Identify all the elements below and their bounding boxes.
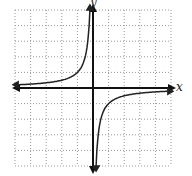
x-axis-label: x — [176, 80, 183, 94]
graph — [0, 0, 192, 176]
y-axis-label: y — [90, 0, 97, 9]
